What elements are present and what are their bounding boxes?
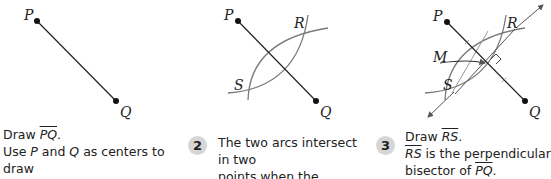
step-2-badge: 2	[188, 136, 207, 155]
step-1-panel: P Q Draw PQ. Use P and Q as centers to d…	[0, 0, 180, 179]
caption-text: .	[458, 129, 462, 144]
step-2-figure: P Q R S	[180, 0, 360, 125]
caption-text: and	[38, 144, 69, 159]
line-rs-arrow-down	[428, 92, 454, 117]
label-p: P	[432, 8, 443, 24]
label-r: R	[293, 15, 305, 31]
caption-text: is the perpendicular	[422, 146, 551, 161]
caption-text: Use	[3, 144, 30, 159]
highlight-text: two arcs	[3, 178, 56, 179]
label-r: R	[506, 15, 518, 31]
caption-text: P	[30, 144, 38, 159]
label-q: Q	[120, 104, 132, 120]
segment-pq-label: PQ	[40, 127, 57, 142]
step-3-caption: Draw RS. RS is the perpendicular bisecto…	[405, 128, 551, 179]
point-q	[313, 98, 319, 104]
line-rs-label: RS	[405, 146, 422, 161]
label-q: Q	[529, 104, 541, 120]
arc-from-q	[248, 28, 328, 100]
segment-pq-label: PQ	[475, 163, 492, 178]
label-p: P	[23, 7, 34, 23]
label-s: S	[443, 77, 453, 93]
label-q: Q	[320, 104, 332, 120]
step-2-caption: The two arcs intersect in two points whe…	[218, 134, 360, 179]
caption-text: bisector of	[405, 163, 475, 178]
step-3-badge: 3	[376, 136, 395, 155]
caption-text: The two arcs intersect in two	[218, 134, 360, 168]
caption-text: points when the radius used	[218, 168, 360, 179]
caption-text: .	[493, 163, 497, 178]
step-3-panel: P Q R S M 3 Draw RS. RS is the perpendic…	[360, 0, 551, 179]
label-s: S	[234, 77, 244, 93]
caption-text: Draw	[405, 129, 442, 144]
point-p	[34, 18, 40, 24]
caption-text: Draw	[3, 127, 40, 142]
label-p: P	[223, 7, 234, 23]
caption-text: Q	[69, 144, 79, 159]
segment-pq	[37, 21, 116, 101]
point-q	[113, 98, 119, 104]
point-p	[235, 18, 241, 24]
label-m: M	[432, 49, 448, 65]
step-3-figure: P Q R S M	[360, 0, 551, 125]
point-p	[444, 19, 450, 25]
line-rs-label: RS	[442, 129, 459, 144]
line-rs-arrow-up	[516, 5, 543, 28]
step-1-caption: Draw PQ. Use P and Q as centers to draw …	[3, 126, 181, 179]
step-1-figure: P Q	[0, 0, 180, 125]
caption-text: .	[57, 127, 61, 142]
step-2-panel: P Q R S 2 The two arcs intersect in two …	[180, 0, 360, 179]
point-q	[522, 98, 528, 104]
